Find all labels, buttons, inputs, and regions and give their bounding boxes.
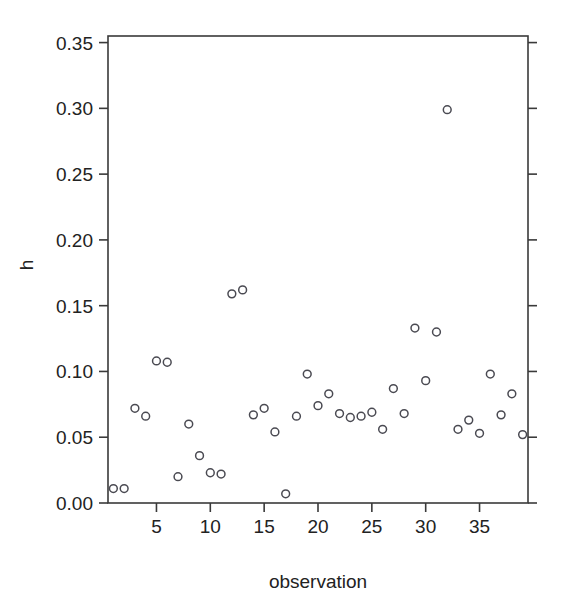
data-point-marker xyxy=(346,414,354,422)
data-point-marker xyxy=(293,412,301,420)
data-point-marker xyxy=(476,429,484,437)
data-point-marker xyxy=(368,408,376,416)
plot-canvas: 0.000.050.100.150.200.250.300.35 5101520… xyxy=(0,0,563,598)
y-tick-label: 0.15 xyxy=(56,296,93,317)
data-point-marker xyxy=(163,358,171,366)
data-point-marker xyxy=(282,490,290,498)
y-tick-label: 0.30 xyxy=(56,98,93,119)
y-tick-label: 0.35 xyxy=(56,33,93,54)
x-tick-label: 10 xyxy=(200,516,221,537)
data-point-marker xyxy=(196,452,204,460)
y-tick-label: 0.10 xyxy=(56,361,93,382)
x-tick-label: 25 xyxy=(361,516,382,537)
data-point-marker xyxy=(389,385,397,393)
data-point-marker xyxy=(249,411,257,419)
data-point-marker xyxy=(228,290,236,298)
data-point-marker xyxy=(454,425,462,433)
x-tick-label: 5 xyxy=(151,516,162,537)
data-point-marker xyxy=(271,428,279,436)
x-tick-label: 20 xyxy=(307,516,328,537)
data-point-marker xyxy=(497,411,505,419)
data-point-marker xyxy=(336,410,344,418)
data-point-marker xyxy=(443,106,451,114)
x-tick-label: 30 xyxy=(415,516,436,537)
data-point-marker xyxy=(508,390,516,398)
x-tick-label: 15 xyxy=(254,516,275,537)
data-point-marker xyxy=(357,412,365,420)
data-point-marker xyxy=(260,404,268,412)
data-point-marker xyxy=(400,410,408,418)
data-point-marker xyxy=(486,370,494,378)
data-point-marker xyxy=(142,412,150,420)
data-point-marker xyxy=(217,470,225,478)
y-tick-label: 0.05 xyxy=(56,427,93,448)
data-point-marker xyxy=(185,420,193,428)
data-point-marker xyxy=(465,416,473,424)
data-point-marker xyxy=(325,390,333,398)
plot-border xyxy=(108,36,528,503)
y-axis-title: h xyxy=(16,260,37,271)
y-axis: 0.000.050.100.150.200.250.300.35 xyxy=(56,33,537,514)
x-tick-label: 35 xyxy=(469,516,490,537)
data-point-marker xyxy=(239,286,247,294)
data-point-marker xyxy=(109,485,117,493)
data-point-marker xyxy=(433,328,441,336)
data-point-marker xyxy=(519,431,527,439)
data-point-marker xyxy=(131,404,139,412)
data-point-marker xyxy=(422,377,430,385)
x-axis-title: observation xyxy=(269,571,367,592)
data-points-layer xyxy=(109,106,526,498)
plot-frame xyxy=(108,36,528,503)
data-point-marker xyxy=(411,324,419,332)
y-tick-label: 0.20 xyxy=(56,230,93,251)
x-axis: 5101520253035 xyxy=(151,503,490,537)
data-point-marker xyxy=(206,469,214,477)
data-point-marker xyxy=(314,402,322,410)
data-point-marker xyxy=(303,370,311,378)
data-point-marker xyxy=(379,425,387,433)
y-tick-label: 0.00 xyxy=(56,493,93,514)
data-point-marker xyxy=(120,485,128,493)
y-tick-label: 0.25 xyxy=(56,164,93,185)
data-point-marker xyxy=(174,473,182,481)
scatter-plot-figure: 0.000.050.100.150.200.250.300.35 5101520… xyxy=(0,0,563,598)
data-point-marker xyxy=(153,357,161,365)
